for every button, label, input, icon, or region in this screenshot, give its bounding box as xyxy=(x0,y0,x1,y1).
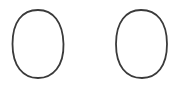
right-oval xyxy=(116,10,167,78)
left-oval xyxy=(13,10,64,78)
drawing-canvas xyxy=(0,0,194,88)
